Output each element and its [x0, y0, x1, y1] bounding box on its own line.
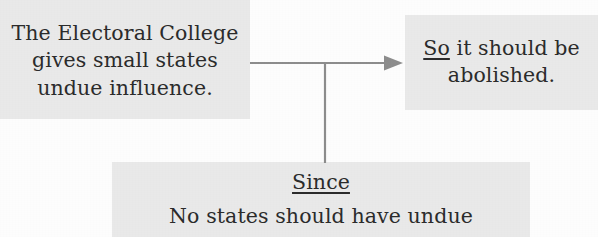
- claim-box: The Electoral College gives small states…: [0, 0, 250, 119]
- conclusion-line-2: abolished.: [405, 62, 598, 89]
- conclusion-line-1: So it should be: [405, 35, 598, 62]
- claim-line-3: undue influence.: [0, 75, 250, 102]
- conclusion-connective: So: [423, 36, 450, 60]
- claim-line-1: The Electoral College: [0, 20, 250, 47]
- claim-line-2: gives small states: [0, 47, 250, 74]
- reason-box: Since No states should have undue: [112, 162, 530, 237]
- argument-diagram: The Electoral College gives small states…: [0, 0, 598, 237]
- arrow-head-icon: [384, 56, 403, 71]
- conclusion-box: So it should be abolished.: [405, 15, 598, 110]
- reason-line-1: No states should have undue: [112, 203, 530, 230]
- reason-connective: Since: [112, 169, 530, 196]
- conclusion-line-1-rest: it should be: [450, 36, 580, 60]
